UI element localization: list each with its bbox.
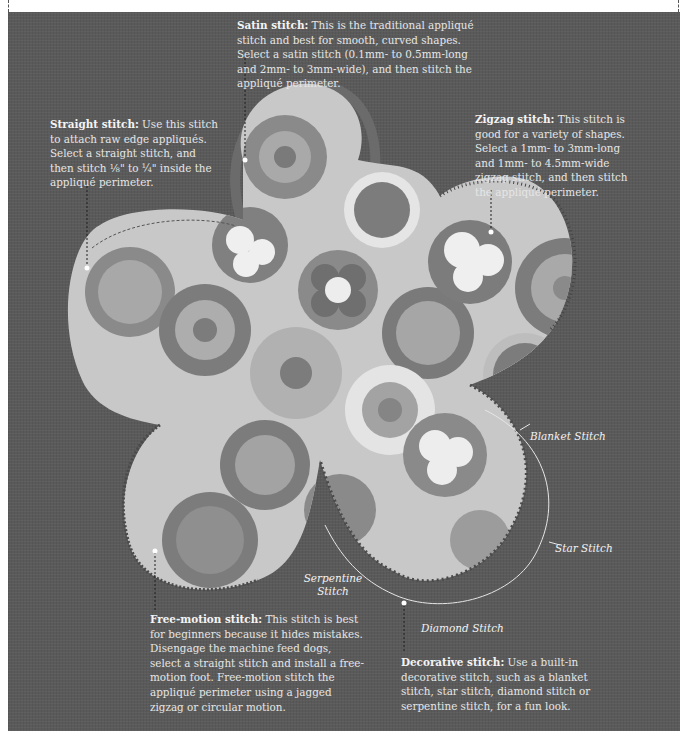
- callout-body: This stitch is best for beginners becaus…: [150, 613, 364, 713]
- callout-decorative-stitch: Decorative stitch: Use a built-in decora…: [401, 655, 606, 713]
- callout-title: Free-motion stitch:: [150, 613, 262, 625]
- callout-satin-stitch: Satin stitch: This is the traditional ap…: [237, 18, 482, 91]
- cut-line-right: [678, 0, 679, 12]
- label-serpentine-line2: Stitch: [303, 585, 363, 598]
- cut-line-left: [8, 0, 9, 12]
- label-blanket-stitch: Blanket Stitch: [530, 430, 606, 442]
- callout-straight-stitch: Straight stitch: Use this stitch to atta…: [50, 117, 218, 190]
- callout-title: Straight stitch:: [50, 118, 139, 130]
- callout-title: Decorative stitch:: [401, 656, 504, 668]
- callout-title: Satin stitch:: [237, 19, 308, 31]
- callout-free-motion-stitch: Free-motion stitch: This stitch is best …: [150, 612, 365, 714]
- cropped-header-strip: [0, 0, 694, 12]
- label-serpentine-line1: Serpentine: [303, 572, 363, 585]
- callout-title: Zigzag stitch:: [475, 113, 554, 125]
- illustration-panel: Satin stitch: This is the traditional ap…: [8, 12, 680, 731]
- label-star-stitch: Star Stitch: [555, 542, 613, 554]
- label-diamond-stitch: Diamond Stitch: [421, 622, 504, 634]
- callout-body: This stitch is good for a variety of sha…: [475, 113, 628, 198]
- callout-zigzag-stitch: Zigzag stitch: This stitch is good for a…: [475, 112, 630, 200]
- label-serpentine-stitch: Serpentine Stitch: [303, 572, 363, 598]
